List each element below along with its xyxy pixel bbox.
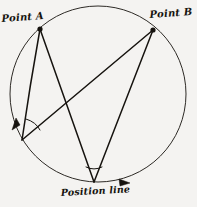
vertex-marker-point-a: [37, 26, 42, 31]
vertex-marker-point-b: [150, 27, 155, 32]
chord-point-b-to-bottom-observer: [94, 30, 153, 182]
locus-circle: [10, 6, 186, 182]
figure-canvas: Point A Point B Position line: [0, 0, 197, 207]
angle-arc-left-observer: [26, 119, 40, 130]
chord-point-b-to-left-observer: [22, 30, 153, 140]
chord-point-a-to-bottom-observer: [40, 29, 94, 182]
arc-direction-arrow-left: [12, 118, 20, 130]
diagram-svg: [0, 0, 197, 207]
